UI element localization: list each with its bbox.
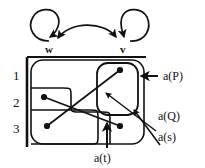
row-label-1: 1 [13, 69, 20, 82]
annotation-label-aQ: a(Q) [158, 110, 180, 122]
arrow-aQ [106, 93, 156, 131]
arc-w-v [58, 25, 116, 38]
row-label-2: 2 [13, 96, 20, 109]
annotation-label-aP: a(P) [163, 70, 183, 82]
row-label-3: 3 [13, 122, 20, 135]
self-loop-v [121, 10, 149, 41]
annotation-label-at: a(t) [94, 152, 111, 164]
segment-p1-p3 [47, 70, 120, 126]
annotation-label-as: a(s) [158, 131, 176, 143]
region-lower-left [31, 110, 98, 144]
segment-p2-p4 [44, 97, 120, 126]
node-label-w: w [45, 44, 53, 55]
outer-region-P [31, 60, 144, 144]
arrow-as [134, 110, 160, 145]
topology-figure: w v 1 2 3 a(P) a(Q) a(s) a(t) [0, 0, 205, 168]
node-label-v: v [120, 44, 126, 55]
self-loop-w [31, 10, 59, 41]
